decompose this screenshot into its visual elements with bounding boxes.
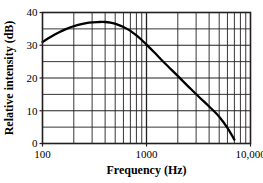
y-axis-tick-label: 30 (27, 39, 39, 51)
y-axis-tick-label: 40 (27, 6, 39, 18)
x-axis-tick-label: 100 (34, 148, 51, 160)
y-axis-tick-label: 20 (27, 72, 39, 84)
intensity-vs-frequency-chart: 010203040100100010,000Frequency (Hz)Rela… (0, 0, 263, 183)
grid-lines (43, 13, 251, 144)
y-axis-tick-label: 10 (27, 105, 39, 117)
x-axis-tick-label: 10,000 (235, 148, 263, 160)
figure-container: 010203040100100010,000Frequency (Hz)Rela… (0, 0, 263, 183)
x-axis-tick-label: 1000 (136, 148, 159, 160)
y-axis-title: Relative intensity (dB) (2, 21, 16, 136)
x-axis-title: Frequency (Hz) (106, 163, 186, 177)
